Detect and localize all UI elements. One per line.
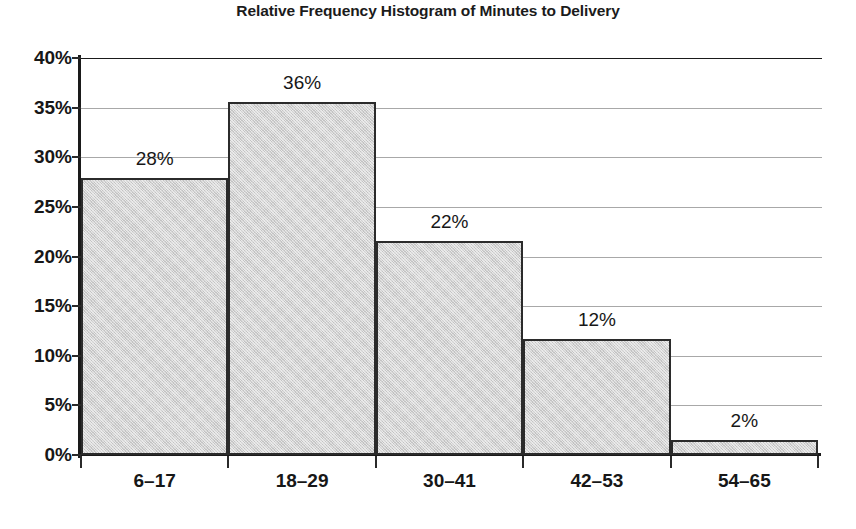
gridline	[81, 58, 822, 59]
y-axis-tick-mark	[72, 404, 81, 406]
y-axis-tick-mark	[72, 57, 81, 59]
plot-area	[81, 58, 818, 455]
y-axis-tick-label: 35%	[0, 97, 72, 119]
x-axis-tick-label: 54–65	[718, 470, 771, 492]
y-axis-tick-label: 25%	[0, 196, 72, 218]
x-axis-tick-mark	[227, 456, 229, 468]
x-axis-tick-mark	[817, 456, 819, 468]
x-axis-tick-mark	[522, 456, 524, 468]
gridline	[81, 108, 822, 109]
x-axis-tick-label: 42–53	[570, 470, 623, 492]
bar-value-label: 2%	[731, 410, 758, 432]
y-axis-tick-mark	[72, 206, 81, 208]
y-axis-tick-label: 10%	[0, 345, 72, 367]
histogram-bar	[671, 440, 818, 455]
histogram-bar	[81, 178, 228, 455]
y-axis-tick-mark	[72, 156, 81, 158]
bar-value-label: 36%	[283, 72, 321, 94]
y-axis-tick-label: 5%	[0, 394, 72, 416]
x-axis-tick-mark	[670, 456, 672, 468]
y-axis-tick-label: 15%	[0, 295, 72, 317]
y-axis-tick-label: 30%	[0, 146, 72, 168]
x-axis-tick-label: 30–41	[423, 470, 476, 492]
x-axis-tick-mark	[375, 456, 377, 468]
y-axis-tick-label: 0%	[0, 444, 72, 466]
y-axis-tick-label: 40%	[0, 47, 72, 69]
bar-value-label: 22%	[430, 211, 468, 233]
y-axis-tick-mark	[72, 305, 81, 307]
bar-value-label: 28%	[136, 148, 174, 170]
chart-title: Relative Frequency Histogram of Minutes …	[0, 2, 856, 20]
histogram-bar	[523, 339, 670, 455]
y-axis-tick-mark	[72, 256, 81, 258]
x-axis-tick-mark	[80, 456, 82, 468]
y-axis-tick-label: 20%	[0, 246, 72, 268]
gridline	[81, 157, 822, 158]
y-axis-tick-mark	[72, 107, 81, 109]
x-axis-tick-label: 6–17	[134, 470, 176, 492]
bar-value-label: 12%	[578, 309, 616, 331]
y-axis-tick-mark	[72, 355, 81, 357]
x-axis-tick-label: 18–29	[276, 470, 329, 492]
histogram-bar	[228, 102, 375, 455]
relative-frequency-histogram: Relative Frequency Histogram of Minutes …	[0, 0, 856, 529]
histogram-bar	[376, 241, 523, 455]
